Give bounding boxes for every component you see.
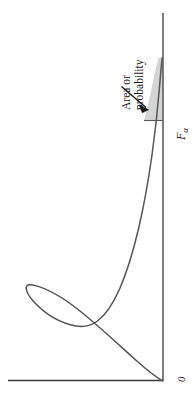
f-alpha-subscript: α	[180, 128, 190, 133]
f-alpha-letter: F	[174, 133, 188, 140]
origin-axis-label: 0	[175, 377, 188, 383]
annotation-line-1: Area or	[120, 60, 133, 110]
f-distribution-figure: Area or probability Fα 0	[0, 0, 193, 398]
plot-canvas	[0, 0, 193, 398]
annotation-line-2: probability	[133, 60, 146, 110]
f-alpha-axis-label: Fα	[175, 128, 191, 140]
area-probability-annotation: Area or probability	[120, 60, 146, 110]
